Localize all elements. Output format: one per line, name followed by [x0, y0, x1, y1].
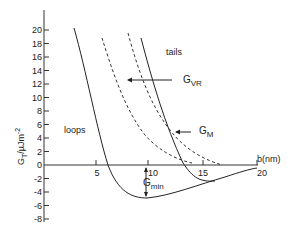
svg-text:14: 14: [32, 66, 42, 76]
x-ticks: [96, 160, 257, 165]
gm-label: GM: [199, 125, 214, 139]
gvr-label: GVR: [183, 74, 202, 88]
y-axis-label: GT/µJm-2: [14, 128, 28, 165]
svg-text:8: 8: [37, 106, 42, 116]
svg-text:-6: -6: [34, 201, 42, 211]
svg-text:4: 4: [37, 133, 42, 143]
svg-text:0: 0: [37, 160, 42, 170]
svg-text:2: 2: [37, 147, 42, 157]
tails-curve: [141, 38, 215, 181]
svg-text:-4: -4: [34, 187, 42, 197]
svg-text:20: 20: [32, 25, 42, 35]
gt-vs-b-chart: 20 18 16 14 12 10 8 6 4 2 0 -2 -4 -6 -8 …: [0, 0, 297, 237]
y-ticks: [44, 30, 49, 219]
gmin-arrowhead-bottom: [144, 192, 148, 197]
loops-label: loops: [64, 125, 86, 135]
svg-text:5: 5: [94, 168, 99, 178]
svg-text:18: 18: [32, 39, 42, 49]
x-axis-label: b(nm): [257, 154, 281, 164]
gvr-arrowhead: [127, 78, 132, 83]
svg-text:20: 20: [257, 168, 267, 178]
svg-text:15: 15: [198, 168, 208, 178]
svg-text:-2: -2: [34, 174, 42, 184]
gm-arrowhead: [175, 130, 180, 135]
svg-text:10: 10: [32, 93, 42, 103]
svg-text:-8: -8: [34, 214, 42, 224]
x-tick-labels: 5 10 15 20: [94, 168, 267, 178]
svg-text:12: 12: [32, 79, 42, 89]
svg-text:16: 16: [32, 52, 42, 62]
y-tick-labels: 20 18 16 14 12 10 8 6 4 2 0 -2 -4 -6 -8: [32, 25, 42, 224]
svg-text:6: 6: [37, 120, 42, 130]
tails-label: tails: [166, 47, 183, 57]
